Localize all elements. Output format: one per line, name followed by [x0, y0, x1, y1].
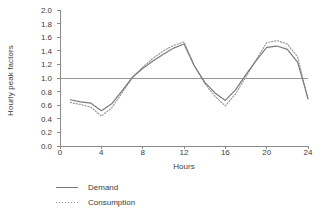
legend-item-demand: Demand	[55, 180, 255, 195]
x-tick-label: 20	[262, 148, 271, 157]
legend-item-consumption: Consumption	[55, 195, 255, 210]
chart-figure: Hourly peak factors 0.00.20.40.60.81.01.…	[0, 0, 322, 214]
y-tick-label: 0.0	[41, 142, 52, 151]
x-tick-label: 8	[140, 148, 144, 157]
x-tick-label: 0	[58, 148, 62, 157]
legend-swatch-consumption	[55, 198, 79, 207]
series-line-demand	[70, 44, 308, 111]
x-tick-label: 24	[304, 148, 313, 157]
y-axis-title: Hourly peak factors	[0, 0, 20, 160]
legend-label-demand: Demand	[88, 183, 118, 192]
y-tick-label: 0.6	[41, 101, 52, 110]
x-tick-label: 4	[99, 148, 103, 157]
y-tick-label: 2.0	[41, 6, 52, 15]
y-tick-label: 1.2	[41, 60, 52, 69]
y-tick-label: 1.0	[41, 74, 52, 83]
x-axis-title: Hours	[56, 162, 312, 171]
y-tick-label: 0.8	[41, 87, 52, 96]
legend-label-consumption: Consumption	[88, 198, 135, 207]
y-tick-label: 0.2	[41, 128, 52, 137]
plot-area	[56, 0, 312, 160]
y-tick-label: 1.8	[41, 19, 52, 28]
y-axis-title-text: Hourly peak factors	[6, 45, 15, 116]
x-tick-label: 12	[180, 148, 189, 157]
y-axis-tick-labels: 0.00.20.40.60.81.01.21.41.61.82.0	[18, 0, 56, 160]
y-tick-label: 0.4	[41, 114, 52, 123]
x-tick-label: 16	[221, 148, 230, 157]
chart-legend: Demand Consumption	[55, 180, 255, 210]
y-tick-label: 1.6	[41, 33, 52, 42]
y-tick-label: 1.4	[41, 46, 52, 55]
plot-svg	[56, 0, 312, 160]
legend-swatch-demand	[55, 183, 79, 192]
